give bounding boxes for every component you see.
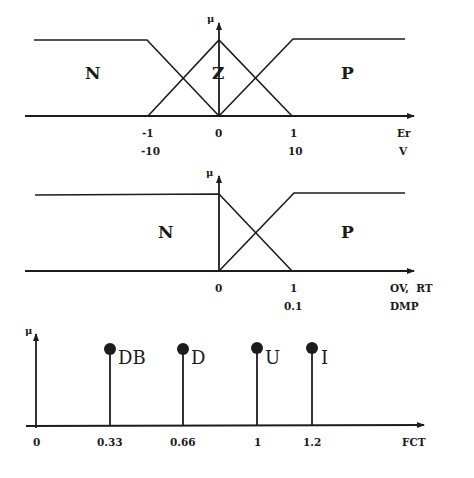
singleton-label-db: DB — [118, 347, 146, 368]
x-axis — [26, 425, 424, 426]
tick-label: 0.33 — [97, 436, 123, 448]
singleton-label-u: U — [265, 347, 280, 368]
set-label-z: Z — [212, 63, 224, 83]
panel-error-membership: μ N Z P -1 0 1 Er -10 10 V — [25, 13, 414, 157]
membership-p — [219, 193, 405, 271]
tick-label: 1 — [254, 436, 261, 448]
tick-label: 0.66 — [170, 436, 196, 448]
tick-label: 1 — [290, 127, 297, 139]
fuzzy-membership-diagram: μ N Z P -1 0 1 Er -10 10 V μ N P 0 1 OV,… — [0, 0, 474, 478]
panel-overshoot-membership: μ N P 0 1 OV, RT 0.1 DMP — [25, 167, 433, 312]
x-axis-label: Er — [397, 127, 411, 139]
y-axis-label: μ — [25, 325, 32, 336]
tick-label: 0 — [215, 127, 222, 139]
x-axis-label-secondary: V — [398, 145, 408, 157]
set-label-n: N — [158, 222, 174, 242]
membership-n — [34, 40, 219, 116]
set-label-n: N — [85, 63, 101, 83]
singleton-dot-u — [251, 342, 263, 354]
membership-p — [219, 39, 405, 116]
x-axis-label-secondary: DMP — [390, 300, 419, 312]
singleton-dot-d — [177, 343, 189, 355]
tick-label: 1 — [290, 282, 297, 294]
tick-label: -1 — [142, 127, 154, 139]
tick-label: 0 — [33, 436, 40, 448]
singleton-dot-db — [104, 343, 116, 355]
panel-fct-singletons: μ DB D U I 0 0.33 0.66 1 1.2 FCT — [25, 325, 426, 448]
singleton-label-d: D — [191, 347, 205, 368]
tick-label-secondary: -10 — [141, 145, 160, 157]
tick-label-secondary: 0.1 — [284, 300, 302, 312]
x-axis-label: OV, RT — [390, 282, 433, 294]
singleton-label-i: I — [321, 347, 328, 368]
set-label-p: P — [341, 222, 354, 242]
y-axis-label: μ — [206, 167, 213, 178]
tick-label: 1.2 — [303, 436, 321, 448]
tick-label-secondary: 10 — [288, 145, 303, 157]
y-axis-label: μ — [207, 13, 214, 24]
tick-label: 0 — [215, 282, 222, 294]
singleton-dot-i — [306, 342, 318, 354]
x-axis-label: FCT — [402, 436, 426, 448]
set-label-p: P — [341, 63, 354, 83]
